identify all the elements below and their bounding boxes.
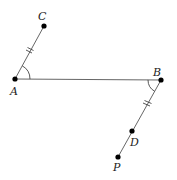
equal-mark-bd xyxy=(143,101,152,107)
label-d: D xyxy=(129,136,139,149)
geometry-diagram: C A B D P xyxy=(0,0,177,180)
label-p: P xyxy=(112,161,121,174)
equal-mark-ac xyxy=(26,48,34,54)
point-c xyxy=(41,23,46,28)
label-b: B xyxy=(152,66,161,79)
label-c: C xyxy=(38,10,47,23)
point-p xyxy=(115,154,120,159)
segment-ac xyxy=(15,26,44,79)
angle-arc-cab xyxy=(22,66,30,79)
segment-ab xyxy=(15,79,161,80)
label-a: A xyxy=(9,85,18,98)
angle-arc-abd xyxy=(148,80,155,91)
point-a xyxy=(12,76,17,81)
point-d xyxy=(129,128,134,133)
